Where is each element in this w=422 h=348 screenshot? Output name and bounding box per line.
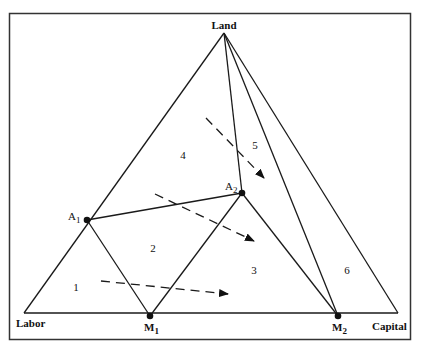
region-label-1: 1: [73, 281, 79, 293]
point-label-a2: A2: [225, 180, 237, 195]
point-m2: [335, 313, 342, 320]
line-a1-a2: [87, 193, 242, 220]
line-land-m2: [224, 33, 338, 316]
point-a1: [84, 217, 91, 224]
line-a2-m2: [242, 193, 338, 316]
vertex-label-labor: Labor: [16, 317, 45, 329]
line-a1-m1: [87, 220, 150, 316]
edge-land-capital: [224, 33, 398, 313]
vertex-label-capital: Capital: [372, 320, 407, 332]
edge-land-labor: [24, 33, 224, 313]
point-label-a1: A1: [68, 210, 80, 225]
line-m1-a2: [150, 193, 242, 316]
frame-border: [10, 14, 411, 340]
vertex-label-land: Land: [211, 19, 236, 31]
region-label-5: 5: [252, 139, 258, 151]
dashed-arrow-1: [101, 281, 228, 294]
point-label-m2: M2: [332, 321, 347, 336]
point-label-m1: M1: [144, 321, 159, 336]
dashed-arrow-2: [155, 194, 254, 241]
point-a2: [239, 190, 246, 197]
ternary-diagram: Land Labor Capital A1 A2 M1 M2 1 2 3 4 5…: [0, 0, 422, 348]
region-label-4: 4: [180, 149, 186, 161]
region-label-2: 2: [150, 242, 156, 254]
region-label-3: 3: [251, 264, 257, 276]
point-m1: [147, 313, 154, 320]
region-label-6: 6: [344, 264, 350, 276]
